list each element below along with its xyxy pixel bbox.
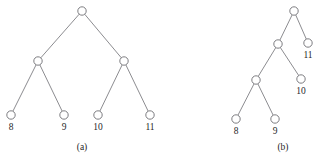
- tree-node-a-n1: [34, 57, 42, 65]
- panel-captions-layer: (a)(b): [77, 142, 289, 153]
- nodes-layer: [7, 7, 312, 123]
- node-label-a-leaf9: 9: [62, 122, 67, 132]
- tree-node-a-root: [78, 7, 86, 15]
- tree-edge: [40, 65, 62, 111]
- tree-node-b-leaf8: [232, 115, 240, 123]
- tree-node-b-leaf10: [297, 75, 305, 83]
- edges-layer: [13, 14, 306, 115]
- node-label-a-leaf8: 8: [9, 122, 14, 132]
- tree-node-b-root: [290, 7, 298, 15]
- tree-node-a-leaf11: [146, 111, 154, 119]
- node-label-a-leaf11: 11: [145, 122, 154, 132]
- tree-edge: [41, 14, 79, 58]
- node-label-b-leaf9: 9: [273, 126, 278, 136]
- node-label-b-leaf11: 11: [303, 50, 312, 60]
- tree-node-a-n2: [120, 57, 128, 65]
- node-label-b-leaf8: 8: [234, 126, 239, 136]
- tree-node-a-leaf10: [94, 111, 102, 119]
- tree-edge: [85, 14, 122, 58]
- tree-edge: [280, 48, 298, 76]
- tree-node-a-leaf8: [7, 111, 15, 119]
- tree-node-b-n2: [252, 76, 260, 84]
- node-label-b-leaf10: 10: [296, 86, 306, 96]
- tree-node-b-leaf9: [271, 115, 279, 123]
- binary-tree-figure: 891011111089 (a)(b): [0, 0, 320, 161]
- tree-edge: [13, 65, 36, 111]
- tree-edge: [258, 84, 273, 115]
- tree-node-b-n1: [274, 40, 282, 48]
- panel-caption-panel-a: (a): [77, 142, 88, 153]
- tree-edge: [126, 65, 148, 111]
- node-labels-layer: 891011111089: [9, 50, 313, 136]
- tree-edge: [258, 48, 276, 77]
- figure-root: 891011111089 (a)(b): [0, 0, 320, 161]
- panel-caption-panel-b: (b): [277, 142, 288, 153]
- tree-edge: [238, 84, 254, 116]
- tree-edge: [296, 15, 307, 39]
- tree-node-b-leaf11: [304, 39, 312, 47]
- tree-edge: [280, 15, 292, 40]
- node-label-a-leaf10: 10: [93, 122, 103, 132]
- tree-node-a-leaf9: [60, 111, 68, 119]
- tree-edge: [100, 65, 122, 111]
